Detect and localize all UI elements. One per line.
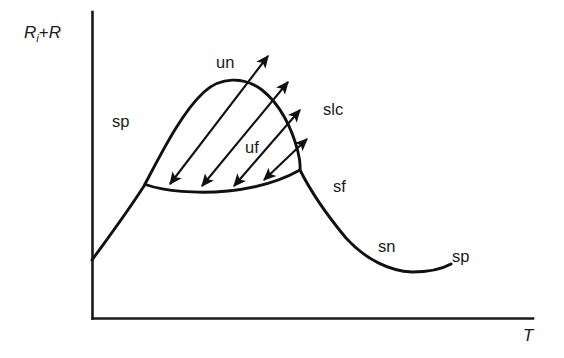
- figure-canvas: [0, 0, 564, 358]
- x-axis-label: T: [523, 327, 533, 344]
- main-resistance-curve: [92, 80, 451, 272]
- curve-label-sp-right: sp: [452, 248, 470, 265]
- y-axis-label: Ri+R: [24, 24, 61, 45]
- y-axis-label-plus: +: [39, 23, 49, 42]
- curve-label-sn: sn: [378, 238, 396, 255]
- y-axis-label-r1: R: [24, 23, 36, 42]
- lower-loop-branch: [147, 170, 300, 192]
- y-axis-label-r2: R: [49, 23, 61, 42]
- curve-label-slc: slc: [323, 101, 343, 118]
- resistance-vs-temperature-figure: Ri+R T sp un slc uf sf sn sp: [0, 0, 564, 358]
- curve-label-un: un: [216, 54, 235, 71]
- curve-label-sf: sf: [333, 178, 346, 195]
- curve-label-uf: uf: [245, 139, 259, 156]
- curve-label-sp-left: sp: [112, 113, 130, 130]
